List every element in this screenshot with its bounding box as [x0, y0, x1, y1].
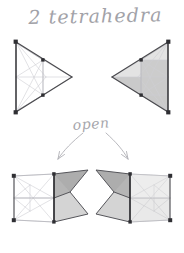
body-shading-br — [130, 174, 170, 222]
sketch-canvas — [0, 0, 184, 253]
